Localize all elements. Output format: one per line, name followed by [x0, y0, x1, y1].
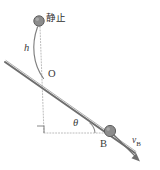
ball-b-highlight	[106, 127, 110, 131]
ball-b	[104, 125, 115, 136]
physics-diagram-figure: 静止 h O θ B vB	[0, 0, 160, 170]
label-point-b: B	[100, 139, 107, 150]
ball-at-rest	[34, 16, 44, 26]
label-height-h: h	[24, 43, 29, 54]
right-angle-marker	[37, 126, 44, 133]
label-at-rest: 静止	[46, 13, 66, 23]
velocity-subscript: B	[136, 140, 141, 148]
ball-at-rest-highlight	[36, 18, 39, 21]
vertical-reference-line	[40, 27, 44, 133]
label-point-o: O	[48, 69, 56, 80]
label-angle-theta: θ	[73, 118, 78, 129]
inclined-plane	[5, 62, 135, 153]
label-velocity-vb: vB	[132, 136, 141, 148]
